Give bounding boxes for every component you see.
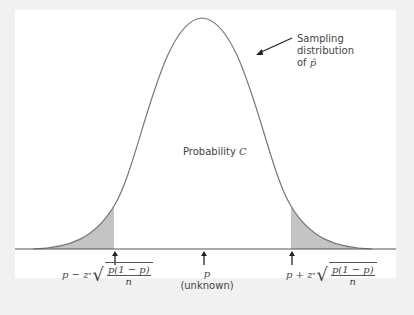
annotation-line-2: distribution bbox=[297, 45, 377, 57]
lower-prefix: p − z bbox=[62, 269, 88, 280]
c-symbol: C bbox=[239, 146, 247, 157]
p-symbol: p bbox=[170, 268, 244, 280]
left-tail-shading bbox=[45, 206, 114, 249]
right-tail-shading bbox=[291, 206, 360, 249]
probability-c-label: Probability C bbox=[183, 146, 247, 158]
upper-bound-formula: p + z* √ p(1 − p) n bbox=[286, 262, 377, 287]
lower-bound-formula: p − z* √ p(1 − p) n bbox=[62, 262, 153, 287]
annotation-pointer bbox=[259, 38, 292, 53]
annotation-of: of bbox=[297, 57, 307, 68]
center-marker-arrow bbox=[201, 251, 207, 265]
z-star: * bbox=[312, 271, 315, 278]
lower-fraction: p(1 − p) n bbox=[105, 262, 153, 287]
probability-text: Probability bbox=[183, 146, 236, 157]
sqrt-icon: √ bbox=[92, 266, 103, 284]
upper-fraction: p(1 − p) n bbox=[329, 262, 377, 287]
z-star: * bbox=[88, 271, 91, 278]
sampling-distribution-label: Sampling distribution of p̂ bbox=[297, 33, 377, 69]
upper-prefix: p + z bbox=[286, 269, 312, 280]
p-hat-symbol: p̂ bbox=[310, 57, 316, 68]
upper-numerator: p(1 − p) bbox=[331, 264, 375, 276]
lower-numerator: p(1 − p) bbox=[107, 264, 151, 276]
annotation-arrowhead bbox=[256, 49, 263, 55]
upper-denominator: n bbox=[350, 276, 356, 287]
lower-denominator: n bbox=[126, 276, 132, 287]
unknown-note: (unknown) bbox=[170, 280, 244, 292]
sqrt-icon: √ bbox=[316, 266, 327, 284]
center-marker-label: p (unknown) bbox=[170, 268, 244, 292]
annotation-line-3: of p̂ bbox=[297, 57, 377, 69]
annotation-line-1: Sampling bbox=[297, 33, 377, 45]
